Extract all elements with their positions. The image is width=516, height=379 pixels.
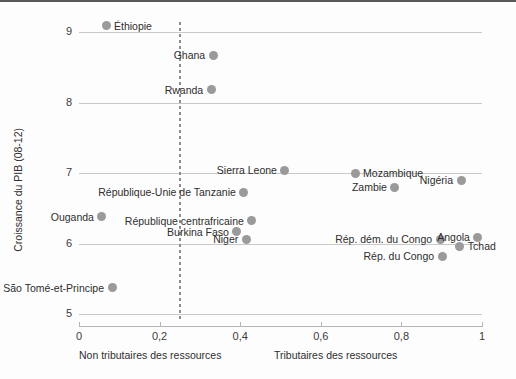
x-axis-group-label-right: Tributaires des ressources: [274, 349, 397, 361]
data-point[interactable]: [242, 235, 251, 244]
data-point[interactable]: [102, 21, 111, 30]
x-tick-label: 0: [59, 330, 99, 342]
data-point[interactable]: [351, 169, 360, 178]
data-point-label: Ghana: [174, 50, 206, 61]
y-tick: 9: [48, 26, 72, 37]
data-point[interactable]: [457, 176, 466, 185]
y-tick: 8: [48, 97, 72, 108]
x-tick-mark: [240, 322, 241, 327]
data-point-label: Niger: [213, 234, 238, 245]
y-tick: 5: [48, 308, 72, 319]
data-point-label: Zambie: [352, 182, 387, 193]
data-point-label: Éthiopie: [114, 20, 152, 31]
data-point-label: Sierra Leone: [217, 165, 277, 176]
data-point[interactable]: [390, 183, 399, 192]
data-point[interactable]: [438, 252, 447, 261]
gridline: [79, 103, 482, 104]
data-point-label: Rép. du Congo: [363, 251, 434, 262]
gridline: [79, 314, 482, 315]
data-point-label: Nigéria: [420, 175, 453, 186]
y-tick: 7: [48, 167, 72, 178]
data-point-label: Mozambique: [363, 168, 423, 179]
data-point[interactable]: [247, 216, 256, 225]
data-point[interactable]: [207, 85, 216, 94]
x-tick-mark: [79, 322, 80, 327]
x-tick-label: 0,4: [220, 330, 260, 342]
x-tick-label: 1: [462, 330, 502, 342]
y-tick-label: 9: [50, 26, 72, 37]
data-point[interactable]: [97, 212, 106, 221]
scatter-chart-figure: Croissance du PIB (08-12) 56789 00,20,40…: [0, 0, 516, 379]
x-tick-mark: [482, 322, 483, 327]
data-point-label: Ouganda: [51, 211, 94, 222]
x-tick-label: 0,2: [140, 330, 180, 342]
data-point-label: Rwanda: [165, 84, 204, 95]
data-point-label: Rép. dém. du Congo: [335, 234, 432, 245]
y-tick-label: 7: [50, 167, 72, 178]
gridline: [79, 32, 482, 33]
y-tick-label: 8: [50, 97, 72, 108]
data-point-label: São Tomé-et-Principe: [3, 282, 104, 293]
data-point[interactable]: [108, 283, 117, 292]
y-tick: 6: [48, 238, 72, 249]
x-axis-line: [79, 326, 482, 327]
data-point[interactable]: [239, 188, 248, 197]
data-point[interactable]: [209, 51, 218, 60]
x-tick-mark: [401, 322, 402, 327]
data-point-label: République-Unie de Tanzanie: [98, 187, 236, 198]
data-point[interactable]: [455, 242, 464, 251]
resource-threshold-dotted-line: [179, 22, 181, 322]
x-tick-label: 0,6: [301, 330, 341, 342]
data-point-label: Tchad: [468, 241, 496, 252]
y-tick-label: 5: [50, 308, 72, 319]
x-tick-mark: [160, 322, 161, 327]
x-axis-group-label-left: Non tributaires des ressources: [79, 349, 221, 361]
x-tick-label: 0,8: [381, 330, 421, 342]
y-tick-label: 6: [50, 238, 72, 249]
y-axis-title: Croissance du PIB (08-12): [12, 128, 24, 252]
data-point-label: Angola: [437, 232, 470, 243]
x-tick-mark: [321, 322, 322, 327]
